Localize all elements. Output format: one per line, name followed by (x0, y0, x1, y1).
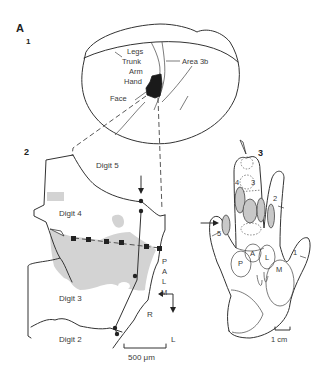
label-pad-a: A (250, 249, 255, 258)
penetration-dot (139, 209, 143, 213)
shade-hole (118, 282, 130, 290)
label-digit4: Digit 4 (59, 209, 82, 218)
penetration-dot (133, 274, 137, 278)
sulcus-3 (180, 96, 188, 110)
label-face: Face (110, 94, 127, 103)
label-palm-m: M (161, 288, 167, 297)
penetration-dot (113, 326, 117, 330)
label-digit5: Digit 5 (96, 161, 119, 170)
digit5-boundary (73, 155, 165, 216)
label-palm-p: P (162, 257, 167, 266)
label-d1: 1 (293, 248, 297, 257)
cortical-map: Digit 5 Digit 4 Digit 3 Digit 2 P A L M … (28, 155, 176, 362)
arrow-down-icon (138, 188, 144, 194)
shade-digit4-spot (112, 215, 124, 228)
penetration-square (157, 246, 162, 251)
label-hand: Hand (124, 77, 142, 86)
label-digit3: Digit 3 (59, 294, 82, 303)
rf-dotted (241, 157, 253, 169)
label-trunk: Trunk (122, 57, 141, 66)
penetration-square (86, 237, 91, 242)
penetration-square (71, 236, 76, 241)
panel-1-label: 1 (26, 37, 31, 46)
hand-region (146, 74, 162, 98)
label-d3: 3 (251, 178, 255, 187)
label-d2: 2 (273, 194, 277, 203)
crease (300, 256, 306, 258)
panel-3-label: 3 (258, 148, 263, 158)
label-d5: 5 (217, 229, 221, 238)
pad-thenar (231, 290, 263, 333)
label-palm-l: L (162, 277, 166, 286)
figure-canvas: A 1 2 3 Legs Trunk Arm Hand Face Area 3b (0, 0, 328, 381)
label-scale-1cm: 1 cm (271, 335, 287, 344)
label-area-3b: Area 3b (182, 57, 208, 66)
projection-line-left (72, 96, 146, 156)
label-palm-a: A (162, 267, 167, 276)
face-leader (135, 92, 146, 100)
label-scale-500um: 500 μm (128, 353, 155, 362)
open-arrow-icon (240, 140, 246, 154)
rf-shaded (222, 215, 230, 235)
label-legs: Legs (127, 47, 144, 56)
scale-bar-1cm (275, 327, 290, 330)
shade-digit4-patch (47, 192, 64, 201)
arrow-down-small-icon (170, 307, 176, 313)
penetration-square (119, 240, 124, 245)
legs-leader (115, 52, 122, 57)
hand-diagram: 4 3 2 5 1 P A L M 1 cm (201, 140, 310, 344)
label-d4: 4 (235, 178, 239, 187)
penetration-square (104, 239, 109, 244)
penetration-dot (115, 332, 119, 336)
label-pad-l: L (265, 253, 269, 262)
panel-2-label: 2 (24, 147, 29, 157)
arrow-right-icon (213, 220, 219, 226)
scale-bar-500um (124, 344, 166, 348)
brain-diagram: Legs Trunk Arm Hand Face Area 3b (82, 24, 240, 144)
penetration-dot (139, 199, 143, 203)
penetration-square (144, 244, 149, 249)
brain-fold (84, 42, 238, 62)
projection-line-right (158, 98, 162, 210)
label-orient-r: R (147, 310, 153, 319)
rf-shaded (243, 199, 257, 223)
rf-shaded (268, 204, 275, 228)
label-orient-l: L (171, 335, 176, 344)
rf-shaded (257, 198, 265, 222)
label-arm: Arm (129, 67, 143, 76)
rf-dotted (241, 223, 261, 235)
figure-label: A (16, 22, 24, 34)
label-pad-m: M (276, 265, 282, 274)
label-pad-p: P (238, 259, 243, 268)
digit3-digit2-boundary (31, 319, 122, 332)
label-digit2: Digit 2 (59, 335, 82, 344)
shade-main-region (50, 230, 156, 291)
